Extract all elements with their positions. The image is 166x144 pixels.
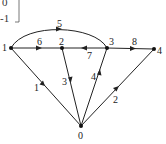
edge-label-8: 8 bbox=[132, 36, 137, 47]
edge-label-2: 2 bbox=[113, 94, 118, 105]
edge-label-6: 6 bbox=[37, 36, 42, 47]
node-0 bbox=[79, 124, 83, 128]
edge-label-4: 4 bbox=[91, 71, 96, 82]
matrix-fragment: 0 -1 bbox=[0, 0, 19, 24]
edge-1 bbox=[11, 48, 81, 126]
edge-labels: 1 2 3 4 5 6 7 8 bbox=[34, 18, 137, 105]
node-label-1: 1 bbox=[2, 42, 7, 53]
edge-label-5: 5 bbox=[57, 18, 62, 29]
edge-3 bbox=[62, 48, 81, 126]
nodes bbox=[9, 46, 156, 128]
edge-label-1: 1 bbox=[34, 82, 39, 93]
matrix-entry-bottom: -1 bbox=[0, 12, 9, 24]
node-label-2: 2 bbox=[59, 36, 64, 47]
edge-4 bbox=[81, 48, 107, 126]
arrowheads bbox=[36, 27, 136, 92]
node-label-0: 0 bbox=[78, 130, 83, 141]
matrix-entry-top: 0 bbox=[2, 0, 8, 8]
node-1 bbox=[9, 46, 13, 50]
node-4 bbox=[152, 47, 156, 51]
node-label-3: 3 bbox=[109, 36, 114, 47]
edge-label-3: 3 bbox=[62, 76, 67, 87]
node-label-4: 4 bbox=[157, 45, 162, 56]
directed-graph: 0 -1 bbox=[0, 0, 166, 144]
edge-label-7: 7 bbox=[87, 50, 92, 61]
